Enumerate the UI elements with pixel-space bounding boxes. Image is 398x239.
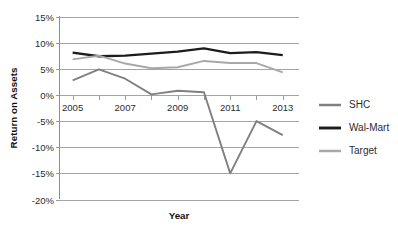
- y-axis-tick-label: -15%: [32, 168, 55, 179]
- y-axis-tick-label: 5%: [40, 64, 54, 75]
- y-axis-title: Return on Assets: [8, 67, 19, 148]
- legend-label-wal-mart: Wal-Mart: [349, 122, 389, 133]
- legend-label-shc: SHC: [349, 99, 370, 110]
- y-axis-tick-label: -10%: [32, 142, 55, 153]
- return-on-assets-line-chart: 15%10%5%0%-5%-10%-15%-20% 20052007200920…: [0, 0, 398, 239]
- y-axis-tick-labels: 15%10%5%0%-5%-10%-15%-20%: [32, 12, 60, 206]
- x-axis-tick-label: 2013: [272, 102, 293, 113]
- x-axis-tick-labels: 20052007200920112013: [62, 102, 293, 113]
- series-line-wal-mart: [73, 48, 283, 56]
- x-axis-tick-marks: [74, 96, 284, 100]
- x-axis-tick-label: 2009: [167, 102, 188, 113]
- chart-container: 15%10%5%0%-5%-10%-15%-20% 20052007200920…: [0, 0, 398, 239]
- y-axis-tick-label: 10%: [35, 38, 55, 49]
- y-axis-tick-label: 15%: [35, 12, 55, 23]
- x-axis-tick-label: 2005: [62, 102, 83, 113]
- y-axis-tick-label: -20%: [32, 195, 55, 206]
- y-axis-tick-label: 0%: [40, 90, 54, 101]
- legend-label-target: Target: [349, 145, 377, 156]
- y-axis-tick-label: -5%: [37, 116, 54, 127]
- x-axis-tick-label: 2011: [220, 102, 240, 113]
- legend: SHCWal-MartTarget: [319, 99, 389, 156]
- x-axis-tick-label: 2007: [115, 102, 136, 113]
- x-axis-title: Year: [169, 210, 190, 221]
